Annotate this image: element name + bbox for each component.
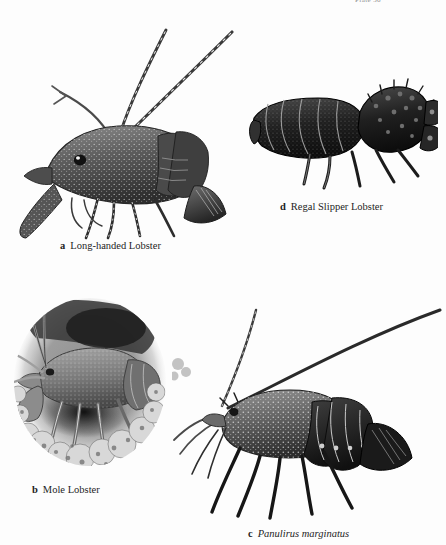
antenna-group-a [52, 30, 232, 140]
lobster-illustration-c [172, 306, 444, 526]
algae-fleck-c [172, 358, 191, 381]
eye-a [74, 155, 86, 166]
lobster-illustration-b [10, 294, 170, 476]
figure-b-mole-lobster [10, 294, 170, 476]
rostrum-a [24, 167, 52, 184]
caption-a-letter: a [60, 240, 65, 251]
caption-b-label: Mole Lobster [43, 484, 100, 495]
caption-b: bMole Lobster [32, 484, 100, 495]
caption-c-label: Panulirus marginatus [258, 528, 350, 539]
figure-a-long-handed-lobster [8, 18, 234, 240]
lobster-illustration-a [8, 18, 234, 240]
caption-d-label: Regal Slipper Lobster [291, 201, 383, 212]
caption-c-letter: c [248, 528, 253, 539]
caption-c: cPanulirus marginatus [248, 528, 349, 539]
caption-b-letter: b [32, 484, 38, 495]
eye-b [46, 368, 54, 375]
caption-d: dRegal Slipper Lobster [280, 201, 383, 212]
figure-d-regal-slipper-lobster [248, 72, 438, 196]
rostrum-c [202, 414, 226, 427]
abdomen-d [253, 98, 364, 158]
figure-c-panulirus-marginatus [172, 306, 444, 526]
lobster-illustration-d [248, 72, 438, 196]
caption-a-label: Long-handed Lobster [70, 240, 161, 251]
caption-a: aLong-handed Lobster [60, 240, 161, 251]
plate-header: Plate 36 [355, 0, 415, 5]
plate-page: Plate 36 [0, 0, 446, 545]
caption-d-letter: d [280, 201, 286, 212]
eye-c [229, 408, 238, 416]
